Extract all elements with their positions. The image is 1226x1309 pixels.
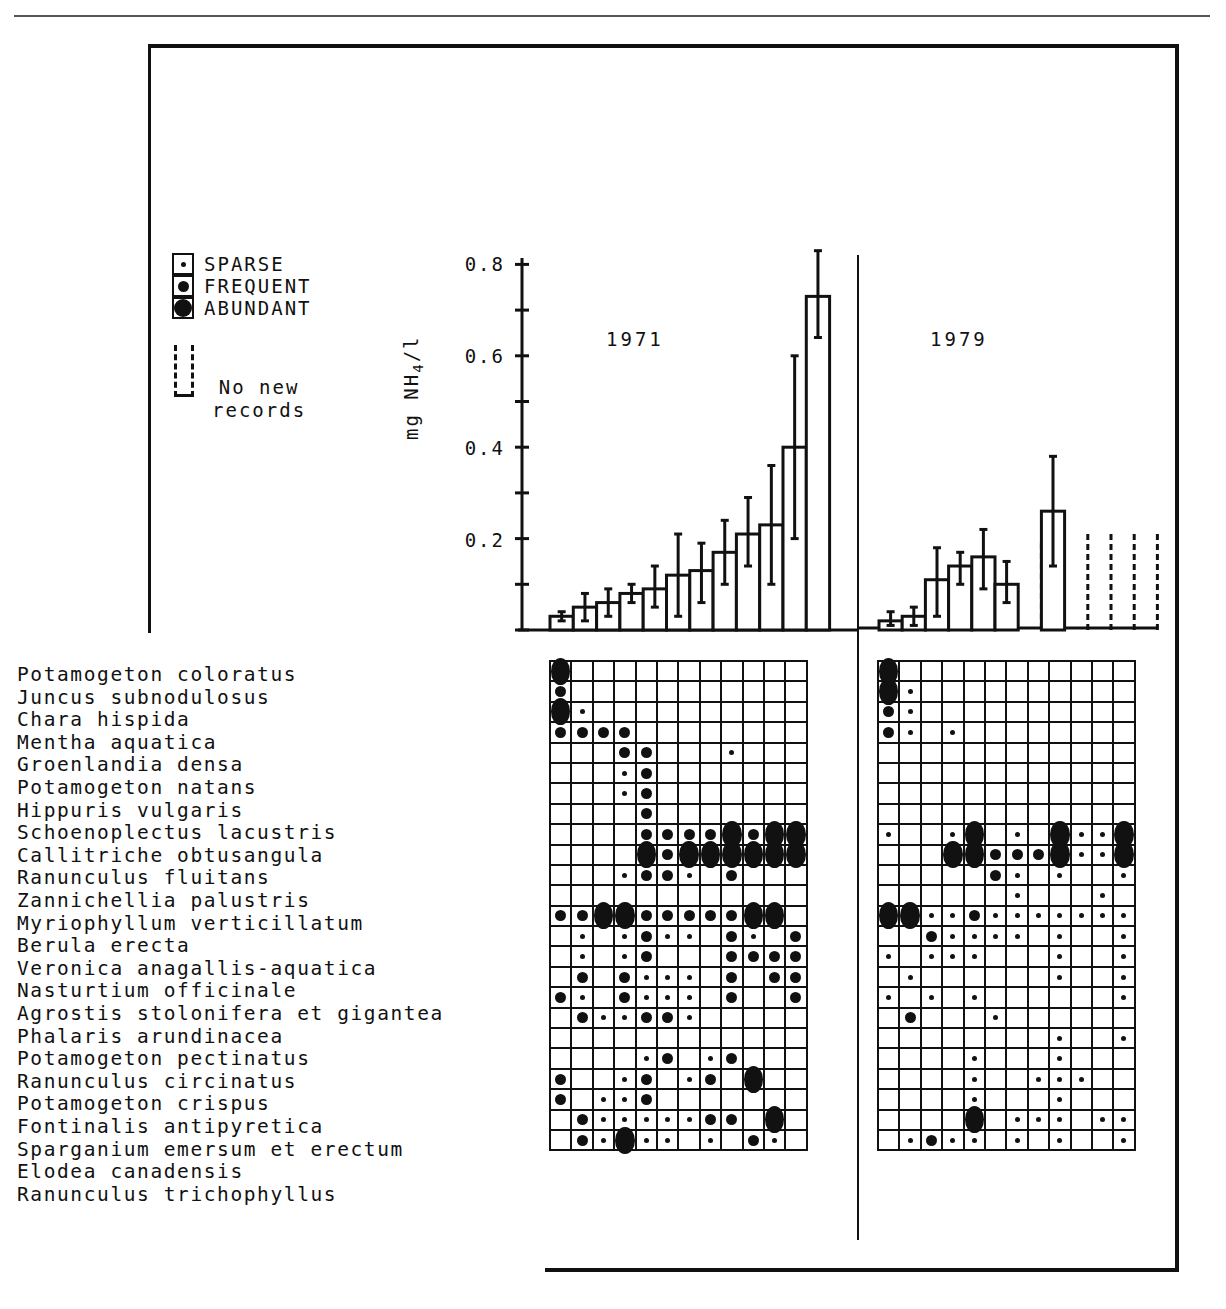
grid-cell xyxy=(550,824,571,844)
sparse-dot-icon xyxy=(1036,1117,1041,1122)
grid-row xyxy=(878,845,1135,865)
grid-cell xyxy=(899,1028,920,1048)
grid-cell xyxy=(678,1110,699,1130)
grid-cell xyxy=(1071,804,1092,824)
grid-cell xyxy=(1028,865,1049,885)
sparse-dot-icon xyxy=(908,689,913,694)
sparse-dot-icon xyxy=(622,771,627,776)
grid-cell xyxy=(942,1008,963,1028)
grid-cell xyxy=(785,702,806,722)
grid-cell xyxy=(1028,783,1049,803)
grid-cell xyxy=(985,681,1006,701)
grid-cell xyxy=(1113,926,1134,946)
grid-cell xyxy=(1028,1008,1049,1028)
grid-row xyxy=(878,1130,1135,1150)
grid-cell xyxy=(614,1008,635,1028)
grid-cell xyxy=(614,906,635,926)
grid-cell xyxy=(700,967,721,987)
grid-cell xyxy=(550,946,571,966)
sparse-dot-icon xyxy=(1121,1036,1126,1041)
grid-cell xyxy=(921,1069,942,1089)
grid-cell xyxy=(878,824,899,844)
grid-cell xyxy=(1092,804,1113,824)
sparse-dot-icon xyxy=(1015,1138,1020,1143)
grid-cell xyxy=(764,722,785,742)
sparse-dot-icon xyxy=(687,873,692,878)
species-label: Berula erecta xyxy=(17,935,190,957)
frequent-dot-icon xyxy=(577,1114,588,1125)
grid-cell xyxy=(657,845,678,865)
sparse-dot-icon xyxy=(1079,1077,1084,1082)
grid-cell xyxy=(899,783,920,803)
grid-row xyxy=(550,1089,807,1109)
grid-cell xyxy=(1092,681,1113,701)
grid-cell xyxy=(593,845,614,865)
grid-cell xyxy=(721,722,742,742)
frequent-dot-icon xyxy=(641,910,652,921)
sparse-dot-icon xyxy=(950,913,955,918)
species-label: Callitriche obtusangula xyxy=(17,845,324,867)
grid-cell xyxy=(964,1069,985,1089)
sparse-dot-icon xyxy=(665,934,670,939)
grid-cell xyxy=(678,946,699,966)
grid-cell xyxy=(921,1048,942,1068)
grid-cell xyxy=(964,661,985,681)
grid-cell xyxy=(636,763,657,783)
sparse-dot-icon xyxy=(1015,873,1020,878)
species-label: Potamogeton coloratus xyxy=(17,664,297,686)
grid-cell xyxy=(1049,783,1070,803)
grid-cell xyxy=(921,1110,942,1130)
grid-cell xyxy=(878,1110,899,1130)
grid-row xyxy=(550,1028,807,1048)
frequent-dot-icon xyxy=(555,727,566,738)
grid-cell xyxy=(657,926,678,946)
grid-cell xyxy=(942,885,963,905)
grid-cell xyxy=(785,1089,806,1109)
grid-cell xyxy=(636,722,657,742)
grid-row xyxy=(878,661,1135,681)
grid-cell xyxy=(1028,702,1049,722)
grid-cell xyxy=(942,1130,963,1150)
sparse-dot-icon xyxy=(687,1117,692,1122)
grid-cell xyxy=(985,1008,1006,1028)
grid-cell xyxy=(942,743,963,763)
sparse-dot-icon xyxy=(622,791,627,796)
grid-cell xyxy=(878,743,899,763)
grid-row xyxy=(878,824,1135,844)
species-label: Potamogeton natans xyxy=(17,777,257,799)
grid-cell xyxy=(1006,702,1027,722)
frequent-dot-icon xyxy=(926,931,937,942)
grid-cell xyxy=(636,946,657,966)
sparse-dot-icon xyxy=(1079,913,1084,918)
species-label: Ranunculus circinatus xyxy=(17,1071,297,1093)
grid-cell xyxy=(1028,946,1049,966)
grid-cell xyxy=(721,702,742,722)
sparse-dot-icon xyxy=(1057,1138,1062,1143)
grid-cell xyxy=(964,722,985,742)
grid-cell xyxy=(1049,906,1070,926)
grid-cell xyxy=(899,804,920,824)
sparse-dot-icon xyxy=(1057,1077,1062,1082)
sparse-dot-icon xyxy=(1057,1036,1062,1041)
grid-cell xyxy=(878,1008,899,1028)
grid-row xyxy=(878,783,1135,803)
grid-cell xyxy=(1006,845,1027,865)
grid-cell xyxy=(700,1110,721,1130)
grid-cell xyxy=(878,1048,899,1068)
grid-cell xyxy=(878,946,899,966)
grid-row xyxy=(878,926,1135,946)
grid-row xyxy=(550,1130,807,1150)
sparse-dot-icon xyxy=(1057,1097,1062,1102)
species-label: Potamogeton pectinatus xyxy=(17,1048,310,1070)
frequent-dot-icon xyxy=(577,910,588,921)
grid-cell xyxy=(942,804,963,824)
grid-cell xyxy=(678,1028,699,1048)
grid-cell xyxy=(550,967,571,987)
grid-cell xyxy=(1113,763,1134,783)
grid-cell xyxy=(678,743,699,763)
grid-cell xyxy=(1006,885,1027,905)
grid-cell xyxy=(593,824,614,844)
grid-cell xyxy=(942,783,963,803)
grid-cell xyxy=(743,661,764,681)
grid-cell xyxy=(657,946,678,966)
